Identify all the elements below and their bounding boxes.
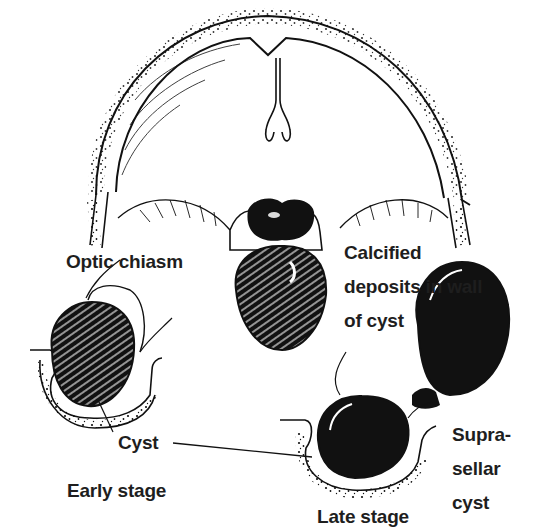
label-calcified-deposits: Calcified deposits in wall of cyst <box>344 236 482 338</box>
label-optic-chiasm: Optic chiasm <box>66 251 183 273</box>
early-stage-illustration <box>30 260 172 432</box>
central-cyst <box>230 198 326 350</box>
label-suprasellar-cyst: Supra- sellar cyst <box>452 418 511 520</box>
label-late-stage: Late stage <box>317 506 409 528</box>
label-early-stage: Early stage <box>67 480 166 502</box>
label-cyst: Cyst <box>118 432 158 454</box>
